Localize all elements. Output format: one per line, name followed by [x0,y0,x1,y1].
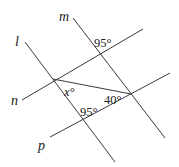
angle-label-x: x° [63,85,75,99]
label-l: l [15,34,19,49]
geometry-diagram: l m n p 95° x° 40° 95° [0,0,179,167]
label-n: n [11,93,18,108]
angle-label-top-95: 95° [94,36,112,50]
label-m: m [59,9,69,24]
line-m [73,18,165,138]
angle-label-bottom-95: 95° [80,105,98,119]
label-p: p [37,138,45,153]
line-n [22,29,143,100]
angle-label-40: 40° [104,93,122,107]
